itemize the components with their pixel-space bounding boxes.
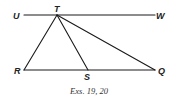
point-label-W: W xyxy=(156,11,166,21)
figure-caption: Exs. 19, 20 xyxy=(69,86,109,96)
segment-TQ xyxy=(57,15,155,70)
point-label-Q: Q xyxy=(158,66,165,76)
point-label-S: S xyxy=(84,72,90,82)
point-label-T: T xyxy=(54,4,61,14)
geometry-figure: U T W R S Q Exs. 19, 20 xyxy=(0,0,176,101)
segment-TR xyxy=(24,15,57,70)
point-label-R: R xyxy=(14,66,21,76)
point-label-U: U xyxy=(13,11,20,21)
